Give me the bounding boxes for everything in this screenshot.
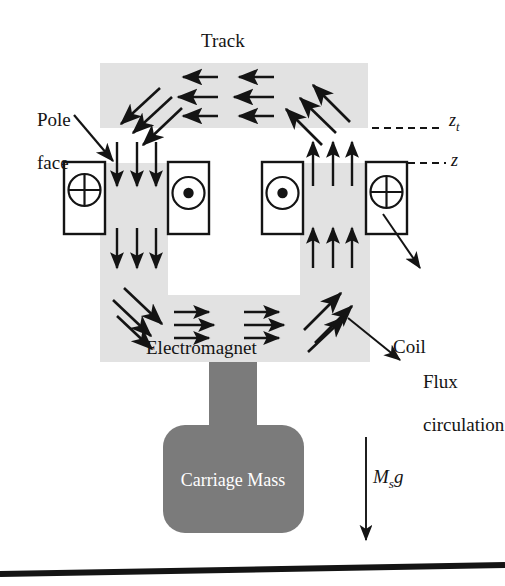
coil-outer-right[interactable] [366,162,407,234]
ground-line [0,565,505,574]
pole-face-line1: Pole [37,109,71,130]
z-track-label: zt [449,110,460,134]
weight-gravity-symbol: g [394,466,404,487]
flux-line1: Flux [423,371,458,392]
flux-circulation-label: Flux circulation [404,350,504,456]
electromagnet-label: Electromagnet [146,337,257,358]
diagram-canvas: Track Pole face Electromagnet Coil Flux … [0,0,505,586]
coil-inner-left[interactable] [168,162,209,234]
track-bar [100,63,368,128]
coil-inner-right[interactable] [262,162,303,234]
carriage-mass-label: Carriage Mass [163,470,303,491]
track-label: Track [201,30,245,51]
z-gap-label: z [451,150,458,170]
z-track-subscript: t [456,120,460,134]
pole-face-line2: face [37,152,69,173]
z-track-symbol: z [449,110,456,130]
z-gap-symbol: z [451,150,458,170]
weight-label: Msg [373,466,404,492]
pole-face-label: Pole face [18,88,71,194]
flux-line2: circulation [423,414,504,435]
weight-mass-symbol: M [373,466,389,487]
carriage-stem [209,362,257,430]
diagram-svg [0,0,505,586]
